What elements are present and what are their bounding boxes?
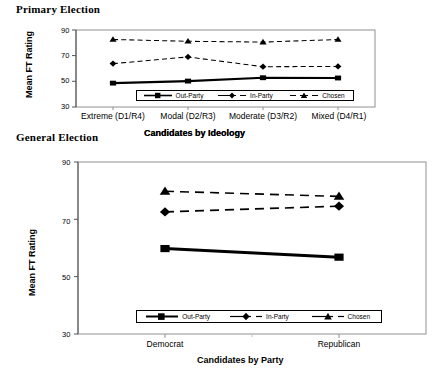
general-x-axis-label: Candidates by Party [197,355,284,365]
data-point-out-party [185,79,191,84]
general-legend: Out-Party In-Party Chosen [136,310,382,323]
general-legend-entry-out-party: Out-Party [137,311,218,322]
data-point-in-party [260,64,267,70]
data-point-out-party [160,245,169,252]
general-election-panel: General Election Mean FT Rating 90 70 50… [0,131,439,368]
general-xtick-democrat: Democrat [125,339,205,349]
legend-marker-diamond-icon [217,91,247,100]
general-xtick-republican: Republican [299,339,379,349]
series-line-chosen [113,39,338,42]
primary-legend-label-in-party: In-Party [250,92,273,99]
legend-marker-square-icon [143,91,173,100]
legend-marker-diamond-icon [229,311,263,322]
shared-ideology-axis-caption: Candidates by Ideology [144,128,245,138]
data-point-out-party [335,76,341,81]
data-point-in-party [334,202,344,211]
primary-legend-label-chosen: Chosen [322,92,344,99]
general-legend-label-out-party: Out-Party [182,313,210,320]
series-line-in-party [165,206,339,212]
data-point-out-party [110,81,116,86]
general-legend-label-chosen: Chosen [348,313,370,320]
series-line-chosen [165,191,339,196]
general-plot-area [0,131,439,368]
series-line-out-party [113,78,338,83]
data-point-in-party [335,63,342,69]
data-point-in-party [110,61,117,67]
legend-marker-triangle-icon [289,91,319,100]
primary-legend-label-out-party: Out-Party [176,92,204,99]
data-point-chosen [334,36,341,42]
primary-legend: Out-Party In-Party Chosen [136,90,354,101]
primary-xtick-moderate: Moderate (D3/R2) [221,111,305,121]
legend-marker-triangle-icon [311,311,345,322]
data-point-out-party [260,75,266,80]
general-legend-entry-chosen: Chosen [300,311,381,322]
series-line-out-party [165,249,339,258]
general-legend-entry-in-party: In-Party [218,311,299,322]
primary-election-panel: Primary Election Mean FT Rating 90 70 50… [0,0,439,131]
data-point-out-party [334,254,343,261]
primary-xtick-extreme: Extreme (D1/R4) [73,111,153,121]
primary-legend-entry-in-party: In-Party [209,91,281,100]
primary-legend-entry-chosen: Chosen [281,91,353,100]
data-point-in-party [160,207,170,216]
primary-legend-entry-out-party: Out-Party [137,91,209,100]
general-legend-label-in-party: In-Party [266,313,289,320]
legend-marker-square-icon [145,311,179,322]
primary-xtick-modal: Modal (D2/R3) [151,111,225,121]
primary-xtick-mixed: Mixed (D4/R1) [302,111,376,121]
series-line-in-party [113,57,338,67]
data-point-in-party [185,54,192,60]
